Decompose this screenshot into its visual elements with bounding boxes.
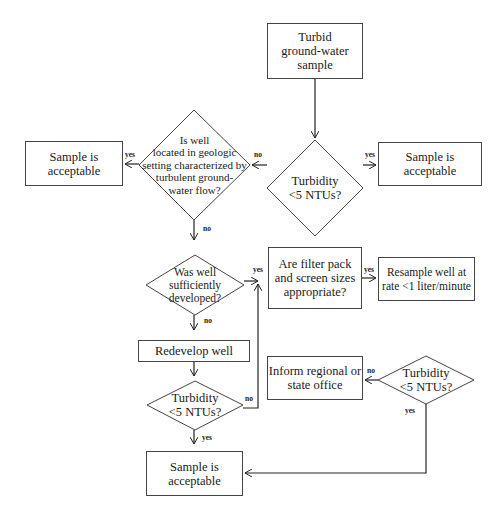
- edge-label-t1-yes: yes: [365, 150, 375, 159]
- box-redevelop-well: Redevelop well: [138, 340, 250, 362]
- edge-label-t3-no: no: [367, 366, 375, 375]
- edge-label-dev-no: no: [204, 316, 212, 325]
- edge-label-t2-no: no: [245, 394, 253, 403]
- decision-geologic-setting: Is welllocated in geologicsetting charac…: [139, 130, 250, 200]
- edge-label-dev-yes: yes: [253, 265, 263, 274]
- box-inform-office: Inform regional orstate office: [267, 356, 363, 400]
- box-sample-acceptable-bottom: Sample isacceptable: [146, 451, 243, 496]
- decision-turbidity-1: Turbidity<5 NTUs?: [277, 168, 353, 208]
- edge-label-t1-no: no: [254, 150, 262, 159]
- edge-label-filter-yes: yes: [364, 265, 374, 274]
- box-sample-acceptable-right: Sample isacceptable: [378, 142, 482, 186]
- decision-turbidity-2: Turbidity<5 NTUs?: [157, 386, 233, 424]
- edge-label-geo-yes: yes: [125, 150, 135, 159]
- edge-label-t2-yes: yes: [202, 433, 212, 442]
- decision-well-developed: Was wellsufficientlydeveloped?: [160, 263, 230, 307]
- edge-label-t3-yes: yes: [405, 406, 415, 415]
- box-filter-pack-question: Are filter packand screen sizesappropria…: [268, 247, 362, 309]
- start-box-turbid-sample: Turbidground-watersample: [267, 23, 363, 79]
- box-sample-acceptable-left: Sample isacceptable: [25, 141, 123, 186]
- decision-turbidity-3: Turbidity<5 NTUs?: [388, 361, 464, 399]
- edge-label-geo-no: no: [203, 224, 211, 233]
- box-resample-well: Resample well atrate <1 liter/minute: [378, 257, 475, 301]
